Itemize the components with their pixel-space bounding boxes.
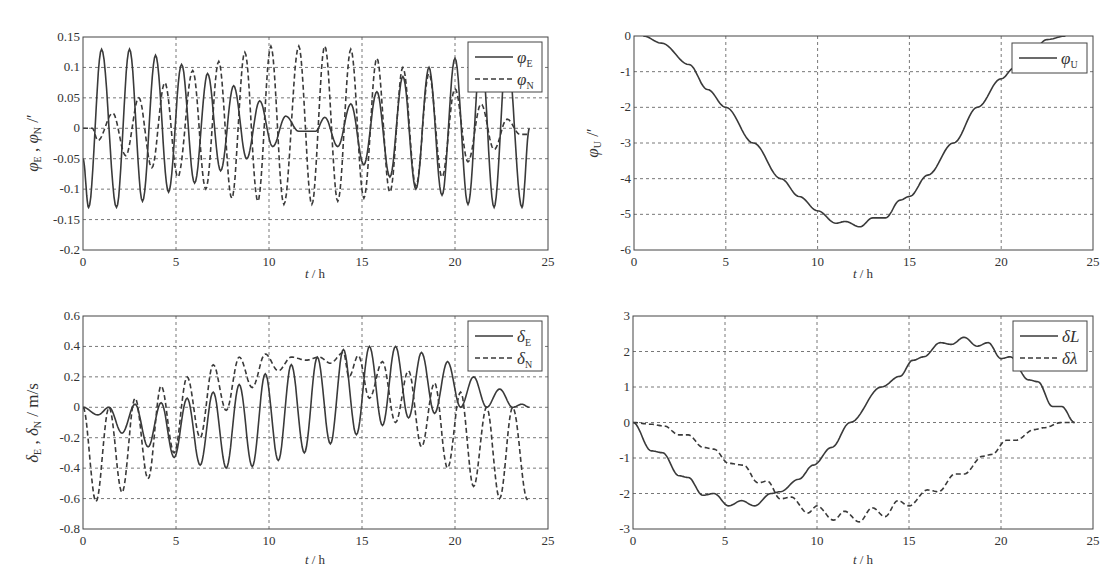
y-tick-label: -1 [620, 64, 631, 79]
x-tick-label: 0 [631, 254, 638, 269]
legend: φEφN [468, 42, 542, 92]
legend: δLδλ [1013, 321, 1087, 371]
y-tick-label: -2 [619, 486, 630, 501]
series-line--solid [633, 337, 1075, 506]
y-tick-label: 0.2 [64, 369, 80, 384]
x-axis-label: t / h [853, 266, 874, 281]
y-tick-label: 0.05 [57, 90, 80, 105]
x-tick-label: 5 [173, 254, 180, 269]
x-tick-label: 20 [995, 533, 1008, 548]
y-tick-label: 0.6 [64, 308, 81, 323]
y-tick-label: -3 [619, 521, 630, 536]
y-tick-label: -0.1 [59, 181, 80, 196]
x-tick-label: 15 [903, 254, 916, 269]
x-tick-label: 10 [263, 254, 276, 269]
x-tick-label: 15 [356, 254, 369, 269]
y-tick-label: -0.2 [59, 242, 80, 257]
y-tick-label: -3 [620, 135, 631, 150]
y-tick-label: 0 [624, 415, 631, 430]
x-axis-label: t / h [853, 552, 874, 567]
y-axis-label-delta-en: δE , δN / m/s [23, 383, 43, 463]
y-tick-label: -6 [620, 242, 631, 257]
series-line-u-solid [643, 36, 1065, 227]
y-tick-label: -0.15 [53, 212, 80, 227]
y-tick-label: -0.6 [59, 491, 80, 506]
y-tick-label: 2 [624, 344, 631, 359]
y-tick-label: -1 [619, 450, 630, 465]
x-axis-label: t / h [305, 552, 326, 567]
legend: δEδN [468, 321, 542, 371]
y-tick-label: -0.05 [53, 151, 80, 166]
x-tick-label: 25 [542, 533, 555, 548]
series-line-n-dashed [83, 353, 528, 502]
y-tick-label: 0.4 [64, 338, 81, 353]
x-axis-label: t / h [305, 266, 326, 281]
legend: φU [1012, 43, 1087, 73]
x-tick-label: 25 [1087, 533, 1100, 548]
y-tick-label: -0.8 [59, 521, 80, 536]
x-tick-label: 0 [80, 254, 87, 269]
x-tick-label: 25 [542, 254, 555, 269]
series-line--dashed [633, 423, 1075, 522]
x-tick-label: 5 [722, 533, 729, 548]
y-axis-label-phi-u: φU /′ [583, 128, 603, 157]
y-tick-label: -2 [620, 99, 631, 114]
plot-velocity-en: 0510152025-0.8-0.6-0.4-0.200.20.40.6δEδN… [23, 308, 555, 567]
x-tick-label: 5 [173, 533, 180, 548]
x-tick-label: 20 [995, 254, 1008, 269]
y-tick-label: 3 [624, 308, 631, 323]
y-tick-label: 0 [74, 399, 81, 414]
plot-attitude-u: 0510152025-6-5-4-3-2-10φU φU /′ t / h [583, 28, 1100, 281]
x-tick-label: 0 [80, 533, 87, 548]
x-tick-label: 10 [811, 533, 824, 548]
x-tick-label: 25 [1087, 254, 1100, 269]
y-tick-label: 0.1 [64, 59, 80, 74]
y-tick-label: 0 [74, 120, 81, 135]
y-tick-label: 1 [624, 379, 631, 394]
plot-attitude-en: 0510152025-0.2-0.15-0.1-0.0500.050.10.15… [23, 29, 555, 281]
legend-label: δL [1062, 327, 1079, 346]
y-tick-label: -5 [620, 206, 631, 221]
x-tick-label: 10 [263, 533, 276, 548]
legend-label: δλ [1062, 349, 1077, 368]
x-tick-label: 0 [630, 533, 637, 548]
y-tick-label: 0.15 [57, 29, 80, 44]
y-tick-label: 0 [625, 28, 632, 43]
y-tick-label: -0.2 [59, 430, 80, 445]
x-tick-label: 20 [449, 254, 462, 269]
x-tick-label: 10 [811, 254, 824, 269]
y-axis-label-phi-en: φE , φN /′ [23, 114, 43, 172]
x-tick-label: 15 [903, 533, 916, 548]
figure-canvas: 0510152025-0.2-0.15-0.1-0.0500.050.10.15… [0, 0, 1114, 577]
plot-position-error: 0510152025-3-2-10123δLδλ t / h [619, 308, 1099, 567]
y-tick-label: -0.4 [59, 460, 80, 475]
x-tick-label: 20 [449, 533, 462, 548]
x-tick-label: 15 [356, 533, 369, 548]
x-tick-label: 5 [723, 254, 730, 269]
y-tick-label: -4 [620, 171, 631, 186]
